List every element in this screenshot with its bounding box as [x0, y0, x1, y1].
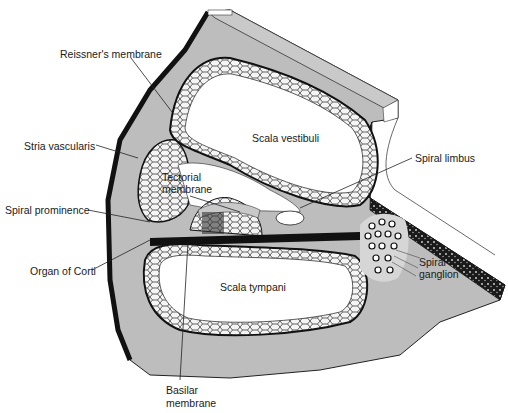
label-tectorial-membrane-1: Tectorial — [162, 171, 201, 183]
label-basilar-membrane-1: Basilar — [166, 384, 198, 396]
label-spiral-ganglion-2: ganglion — [419, 268, 459, 280]
label-spiral-ganglion-1: Spiral — [419, 256, 446, 268]
label-organ-of-corti: Organ of Corti — [30, 265, 96, 277]
label-stria-vascularis: Stria vascularis — [24, 140, 95, 152]
label-spiral-limbus: Spiral limbus — [415, 152, 475, 164]
label-reissners-membrane: Reissner's membrane — [60, 48, 162, 60]
label-scala-tympani: Scala tympani — [220, 281, 286, 293]
label-spiral-prominence: Spiral prominence — [5, 204, 90, 216]
label-scala-vestibuli: Scala vestibuli — [252, 132, 319, 144]
label-basilar-membrane-2: membrane — [166, 397, 216, 409]
label-tectorial-membrane-2: membrane — [162, 183, 212, 195]
